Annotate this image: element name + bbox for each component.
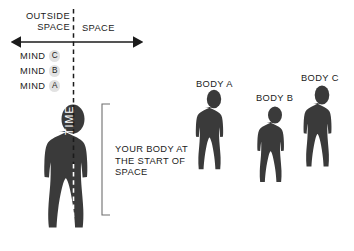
your-body-note: YOUR BODY AT THE START OF SPACE xyxy=(115,144,195,179)
body-b-label: BODY B xyxy=(256,93,293,103)
mind-row-a: MIND A xyxy=(20,80,60,92)
body-bracket xyxy=(102,104,110,215)
mind-row-b: MIND B xyxy=(20,65,60,77)
diagram-graphics xyxy=(0,0,354,251)
mind-badge-c: C xyxy=(49,50,61,62)
mind-label-c: MIND xyxy=(20,51,45,61)
mind-badge-b: B xyxy=(49,65,61,77)
body-b-silhouette xyxy=(257,106,284,182)
mind-badge-a: A xyxy=(49,80,61,92)
outside-space-label: OUTSIDE SPACE xyxy=(12,11,70,34)
body-c-label: BODY C xyxy=(301,73,339,83)
body-a-silhouette xyxy=(196,90,223,170)
mind-label-b: MIND xyxy=(20,66,45,76)
space-time-body-diagram: OUTSIDE SPACE SPACE MIND C MIND B MIND A… xyxy=(0,0,354,251)
time-vertical-label: TIME xyxy=(63,89,75,135)
body-c-silhouette xyxy=(304,86,332,167)
space-label: SPACE xyxy=(82,23,115,34)
mind-row-c: MIND C xyxy=(20,50,60,62)
mind-label-a: MIND xyxy=(20,81,45,91)
body-a-label: BODY A xyxy=(196,79,233,89)
